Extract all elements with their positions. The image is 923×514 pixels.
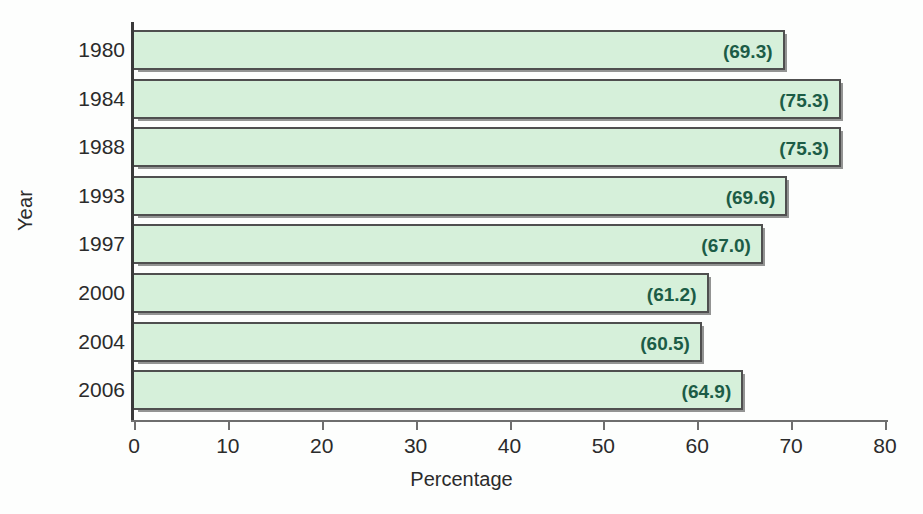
x-axis-tick-mark <box>885 420 887 430</box>
y-axis-tick-label: 2006 <box>47 370 125 410</box>
y-axis-tick-labels: 19801984198819931997200020042006 <box>45 22 125 420</box>
bar[interactable]: (61.2) <box>134 273 709 313</box>
y-axis-tick-label: 1993 <box>47 176 125 216</box>
x-axis-title: Percentage <box>0 468 923 491</box>
bar-row: (75.3) <box>134 127 885 167</box>
bar-value-label: (69.6) <box>726 178 776 218</box>
x-axis-tick-label: 40 <box>480 434 540 458</box>
bar-value-label: (75.3) <box>779 129 829 169</box>
bar-row: (67.0) <box>134 224 885 264</box>
x-axis-tick-mark <box>697 420 699 430</box>
y-axis-title-text: Year <box>15 189 38 230</box>
x-axis-tick-mark <box>416 420 418 430</box>
bar[interactable]: (69.6) <box>134 176 787 216</box>
x-axis-tick-label: 60 <box>667 434 727 458</box>
y-axis-tick-label: 1980 <box>47 30 125 70</box>
bar-row: (64.9) <box>134 370 885 410</box>
bar-row: (75.3) <box>134 79 885 119</box>
y-axis-tick-label: 2004 <box>47 322 125 362</box>
bar-value-label: (69.3) <box>723 32 773 72</box>
x-axis-tick-mark <box>228 420 230 430</box>
x-axis-tick-label: 30 <box>386 434 446 458</box>
bar[interactable]: (75.3) <box>134 127 841 167</box>
x-axis-tick-mark <box>603 420 605 430</box>
y-axis-tick-label: 1988 <box>47 127 125 167</box>
x-axis-tick-mark <box>791 420 793 430</box>
bar-row: (69.6) <box>134 176 885 216</box>
y-axis-tick-label: 2000 <box>47 273 125 313</box>
x-axis-tick-mark <box>510 420 512 430</box>
x-axis-tick-label: 70 <box>761 434 821 458</box>
bar[interactable]: (60.5) <box>134 322 702 362</box>
bar[interactable]: (67.0) <box>134 224 763 264</box>
x-axis-tick-label: 0 <box>104 434 164 458</box>
bar[interactable]: (64.9) <box>134 370 743 410</box>
bar-value-label: (60.5) <box>640 324 690 364</box>
bar-row: (60.5) <box>134 322 885 362</box>
bar-value-label: (67.0) <box>701 226 751 266</box>
bar[interactable]: (69.3) <box>134 30 785 70</box>
plot-area: (69.3)(75.3)(75.3)(69.6)(67.0)(61.2)(60.… <box>134 22 885 420</box>
x-axis-tick-label: 50 <box>573 434 633 458</box>
y-axis-tick-label: 1997 <box>47 224 125 264</box>
bar-value-label: (75.3) <box>779 81 829 121</box>
x-axis-tick-label: 80 <box>855 434 915 458</box>
bar-value-label: (64.9) <box>682 372 732 412</box>
y-axis-tick-label: 1984 <box>47 79 125 119</box>
y-axis-title: Year <box>6 0 46 420</box>
bar[interactable]: (75.3) <box>134 79 841 119</box>
x-axis-tick-label: 20 <box>292 434 352 458</box>
x-axis-tick-mark <box>322 420 324 430</box>
bar-row: (61.2) <box>134 273 885 313</box>
bar-value-label: (61.2) <box>647 275 697 315</box>
bar-chart: Year 19801984198819931997200020042006 (6… <box>0 0 923 514</box>
x-axis-tick-mark <box>134 420 136 430</box>
bar-row: (69.3) <box>134 30 885 70</box>
x-axis-tick-label: 10 <box>198 434 258 458</box>
